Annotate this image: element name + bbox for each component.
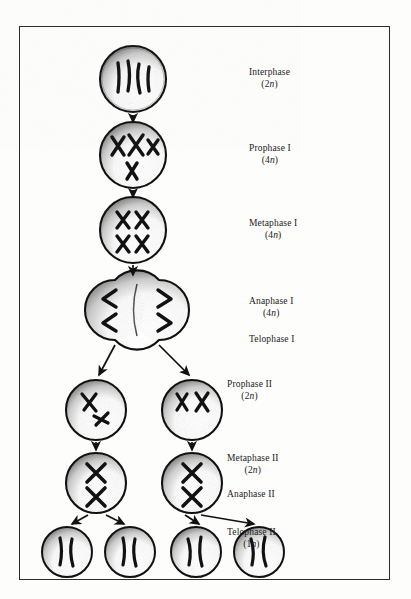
arrow-metaphase2-right-to-telophase-d [201, 515, 254, 524]
label-telophase-2-name: Telophase II [227, 527, 276, 537]
label-prophase-1: Prophase I (4n) [249, 143, 291, 166]
cell-anaphase-1 [85, 270, 189, 349]
label-prophase-1-name: Prophase I [249, 143, 291, 153]
arrow-anaphase1-to-prophase2-left [99, 345, 115, 375]
cell-prophase-1 [100, 122, 166, 188]
label-metaphase-1-ploidy: (4n) [249, 230, 297, 242]
meiosis-illustration [20, 27, 391, 581]
cell-telophase-2-b [105, 527, 155, 577]
label-anaphase-1: Anaphase I (4n) [249, 296, 294, 319]
cell-metaphase-2-left [66, 453, 126, 513]
label-telophase-1-name: Telophase I [249, 334, 295, 344]
cell-interphase [100, 46, 166, 112]
arrow-metaphase2-left-to-telophase-b [106, 515, 124, 524]
arrow-anaphase1-to-prophase2-right [159, 345, 189, 375]
label-metaphase-1-name: Metaphase I [249, 218, 297, 228]
label-telophase-2: Telophase II (1n) [227, 527, 276, 550]
label-anaphase-2: Anaphase II [227, 489, 275, 501]
cell-telophase-2-c [171, 527, 221, 577]
label-interphase: Interphase (2n) [249, 67, 290, 90]
label-telophase-2-ploidy: (1n) [227, 539, 276, 551]
label-interphase-name: Interphase [249, 67, 290, 77]
label-metaphase-2: Metaphase II (2n) [227, 453, 279, 476]
label-prophase-2-ploidy: (2n) [227, 391, 272, 403]
diagram-stage: Interphase (2n) Prophase I (4n) Metaphas… [20, 27, 389, 579]
label-metaphase-2-name: Metaphase II [227, 453, 279, 463]
label-anaphase-2-name: Anaphase II [227, 489, 275, 499]
label-metaphase-1: Metaphase I (4n) [249, 218, 297, 241]
arrow-metaphase2-right-to-telophase-c [185, 515, 199, 524]
label-metaphase-2-ploidy: (2n) [227, 465, 279, 477]
label-prophase-2-name: Prophase II [227, 379, 272, 389]
cell-prophase-2-right [162, 380, 222, 440]
label-prophase-1-ploidy: (4n) [249, 155, 291, 167]
label-anaphase-1-name: Anaphase I [249, 296, 294, 306]
cell-prophase-2-left [66, 380, 126, 440]
label-interphase-ploidy: (2n) [249, 79, 290, 91]
cell-metaphase-1 [100, 197, 166, 263]
cell-telophase-2-a [42, 527, 92, 577]
figure-frame: Interphase (2n) Prophase I (4n) Metaphas… [19, 26, 390, 580]
arrow-metaphase2-left-to-telophase-a [72, 515, 88, 524]
cell-metaphase-2-right [162, 453, 222, 513]
label-prophase-2: Prophase II (2n) [227, 379, 272, 402]
label-anaphase-1-ploidy: (4n) [249, 308, 294, 320]
label-telophase-1: Telophase I [249, 334, 295, 346]
